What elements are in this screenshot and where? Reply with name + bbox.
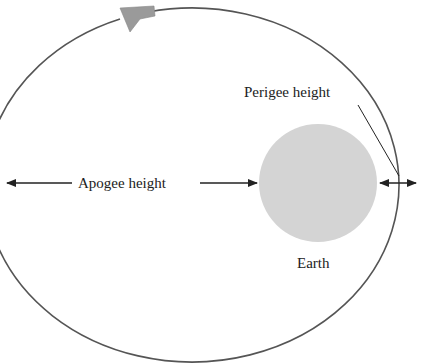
earth-label: Earth <box>297 255 329 271</box>
earth-circle <box>259 124 377 242</box>
satellite-icon <box>120 6 155 32</box>
apogee-height-label: Apogee height <box>76 175 168 191</box>
orbit-diagram <box>0 0 426 364</box>
perigee-height-label: Perigee height <box>244 84 330 100</box>
